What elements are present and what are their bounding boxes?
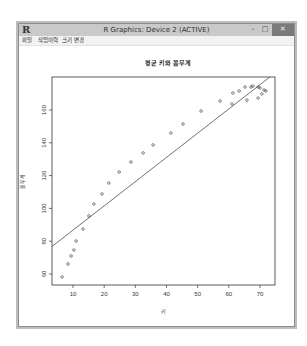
data-point <box>257 97 260 100</box>
data-point <box>232 92 235 95</box>
data-point <box>93 203 96 206</box>
y-axis: 6080100120140160 <box>41 104 52 277</box>
y-tick-label: 60 <box>41 270 47 277</box>
x-tick-label: 40 <box>163 291 170 297</box>
x-axis: 10203040506070 <box>70 285 264 297</box>
data-point <box>75 240 78 243</box>
data-point <box>118 171 121 174</box>
data-point <box>200 110 203 113</box>
y-tick-label: 80 <box>41 237 47 244</box>
data-point <box>142 152 145 155</box>
scatter-plot: 평균 키와 몸무게 10203040506070 608010012014016… <box>0 0 307 346</box>
data-point <box>219 100 222 103</box>
data-point <box>67 263 70 266</box>
x-tick-label: 10 <box>70 291 77 297</box>
data-point <box>108 182 111 185</box>
data-point <box>61 276 64 279</box>
regression-line <box>52 77 270 246</box>
x-tick-label: 20 <box>101 291 108 297</box>
y-tick-label: 100 <box>41 203 47 214</box>
plot-frame <box>52 77 275 285</box>
y-axis-label: 몸무게 <box>19 174 26 189</box>
y-tick-label: 160 <box>41 104 47 115</box>
data-point <box>244 86 247 89</box>
data-point <box>238 90 241 93</box>
chart-title: 평균 키와 몸무게 <box>145 59 191 67</box>
x-tick-label: 60 <box>225 291 232 297</box>
data-points <box>61 85 267 278</box>
data-point <box>246 99 249 102</box>
data-point <box>82 228 85 231</box>
data-point <box>130 161 133 164</box>
data-point <box>231 103 234 106</box>
data-point <box>70 255 73 258</box>
data-point <box>170 132 173 135</box>
x-tick-label: 50 <box>194 291 201 297</box>
data-point <box>182 123 185 126</box>
data-point <box>152 144 155 147</box>
data-point <box>73 249 76 252</box>
y-tick-label: 120 <box>41 170 47 181</box>
data-point <box>261 93 264 96</box>
y-tick-label: 140 <box>41 137 47 148</box>
x-tick-label: 30 <box>132 291 139 297</box>
data-point <box>101 193 104 196</box>
x-axis-label: 키 <box>161 308 166 315</box>
data-point <box>88 215 91 218</box>
x-tick-label: 70 <box>257 291 264 297</box>
